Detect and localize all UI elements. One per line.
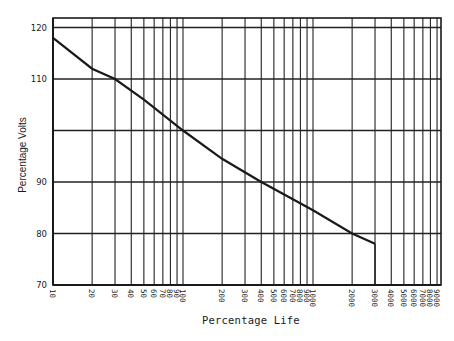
chart-axes bbox=[53, 18, 441, 285]
y-tick-label: 120 bbox=[31, 23, 47, 33]
chart-canvas: 708090110120 102030405060708090100200300… bbox=[0, 0, 454, 341]
x-axis-ticks: 1020304050607080901002003004005006007008… bbox=[48, 289, 441, 308]
x-tick-label: 1000 bbox=[308, 289, 317, 308]
x-tick-label: 6000 bbox=[409, 289, 418, 308]
x-tick-label: 300 bbox=[240, 289, 249, 303]
x-tick-label: 30 bbox=[110, 289, 119, 299]
x-tick-label: 100 bbox=[178, 289, 187, 303]
x-axis-label: Percentage Life bbox=[202, 314, 300, 326]
y-tick-label: 80 bbox=[36, 229, 47, 239]
x-tick-label: 10 bbox=[48, 289, 57, 299]
y-tick-label: 110 bbox=[31, 74, 47, 84]
x-tick-label: 2000 bbox=[347, 289, 356, 308]
x-tick-label: 200 bbox=[217, 289, 226, 303]
x-tick-label: 20 bbox=[87, 289, 96, 299]
x-tick-label: 4000 bbox=[386, 289, 395, 308]
x-tick-label: 40 bbox=[126, 289, 135, 299]
y-tick-label: 90 bbox=[36, 177, 47, 187]
x-tick-label: 5000 bbox=[399, 289, 408, 308]
x-tick-label: 3000 bbox=[370, 289, 379, 308]
y-axis-ticks: 708090110120 bbox=[31, 23, 47, 291]
x-tick-label: 500 bbox=[269, 289, 278, 303]
x-tick-label: 9000 bbox=[432, 289, 441, 308]
x-tick-label: 400 bbox=[256, 289, 265, 303]
y-axis-label: Percentage Volts bbox=[17, 117, 28, 193]
y-tick-label: 70 bbox=[36, 280, 47, 290]
x-tick-label: 600 bbox=[279, 289, 288, 303]
voltage-life-curve bbox=[53, 38, 375, 244]
chart-grid bbox=[53, 18, 441, 285]
x-tick-label: 60 bbox=[149, 289, 158, 299]
x-tick-label: 50 bbox=[139, 289, 148, 299]
